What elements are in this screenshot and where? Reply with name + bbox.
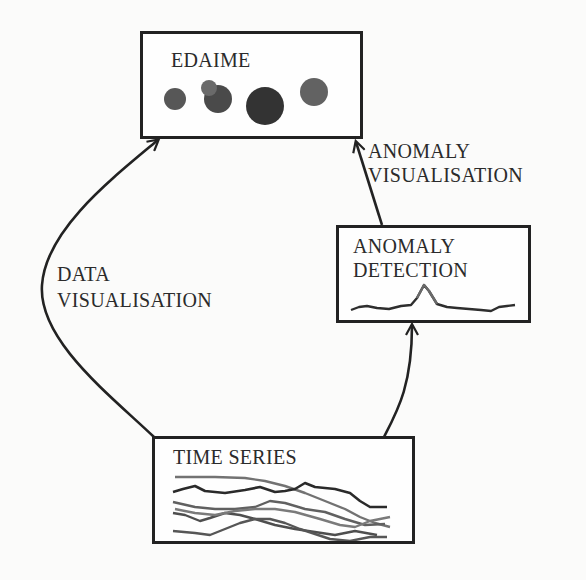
anomaly-detection-node: ANOMALY DETECTION [336, 225, 531, 323]
diagram-canvas: EDAIME ANOMALY VISUALISATION ANOMALY DET… [0, 0, 586, 580]
anomaly-visualisation-label-line1: ANOMALY [368, 139, 523, 163]
bubble-2-overlay [201, 80, 217, 96]
bubble-3 [246, 87, 284, 125]
time-series-plot [155, 439, 412, 541]
anomaly-peak-highlight [417, 285, 437, 304]
bubble-4 [300, 78, 328, 106]
bubble-1 [164, 88, 186, 110]
time-series-to-detection-arrow [384, 325, 412, 437]
edaime-bubble-plot [143, 34, 360, 136]
anomaly-signal-plot [339, 228, 528, 320]
series-line-4 [173, 513, 377, 535]
anomaly-visualisation-label-line2: VISUALISATION [368, 163, 523, 187]
edaime-node: EDAIME [140, 31, 363, 139]
data-visualisation-label: DATA VISUALISATION [57, 262, 212, 312]
data-visualisation-label-line1: DATA [57, 262, 212, 286]
data-visualisation-label-line2: VISUALISATION [57, 288, 212, 312]
anomaly-visualisation-label: ANOMALY VISUALISATION [368, 139, 523, 187]
time-series-node: TIME SERIES [152, 436, 415, 544]
